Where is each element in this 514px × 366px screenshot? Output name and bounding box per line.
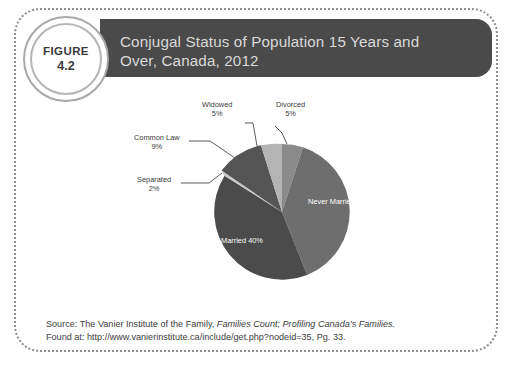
source-line-1-prefix: Source: The Vanier Institute of the Fami… (46, 319, 217, 329)
pie-label-married-pct: 40% (248, 236, 263, 245)
pie-label-widowed-name: Widowed (202, 100, 232, 109)
figure-number-badge: FIGURE 4.2 (23, 16, 109, 102)
figure-header-bar: Conjugal Status of Population 15 Years a… (100, 19, 492, 77)
leader-line-separated (181, 173, 222, 183)
pie-label-separated-pct: 2% (137, 184, 171, 193)
pie-label-divorced-pct: 5% (276, 109, 305, 118)
source-note: Source: The Vanier Institute of the Fami… (46, 318, 476, 345)
pie-label-divorced: Divorced 5% (276, 100, 305, 118)
leader-line-common-law (189, 141, 235, 158)
pie-label-common-law-pct: 9% (134, 142, 180, 151)
pie-label-widowed-pct: 5% (202, 109, 232, 118)
pie-label-married-name: Married (221, 236, 246, 245)
pie-label-widowed: Widowed 5% (202, 100, 232, 118)
pie-label-common-law-name: Common Law (134, 133, 180, 142)
pie-chart-svg (24, 86, 490, 308)
pie-label-never-married-name: Never Married (308, 197, 355, 206)
leader-line-divorced (275, 126, 287, 144)
pie-label-common-law: Common Law 9% (134, 133, 180, 151)
pie-chart: Divorced 5% Widowed 5% Common Law 9% Sep… (24, 86, 490, 308)
figure-number-badge-inner: FIGURE 4.2 (30, 23, 102, 95)
leader-line-widowed (245, 123, 257, 146)
source-line-1-title: Families Count; Profiling Canada’s Famil… (217, 319, 395, 329)
figure-title: Conjugal Status of Population 15 Years a… (120, 32, 419, 70)
figure-badge-number: 4.2 (57, 59, 74, 73)
pie-label-never-married-pct: 39% (357, 197, 372, 206)
source-line-2: Found at: http://www.vanierinstitute.ca/… (46, 331, 476, 344)
pie-label-divorced-name: Divorced (276, 100, 305, 109)
source-line-1: Source: The Vanier Institute of the Fami… (46, 318, 476, 331)
pie-label-separated-name: Separated (137, 175, 171, 184)
pie-label-separated: Separated 2% (137, 175, 171, 193)
pie-label-married: Married 40% (221, 236, 263, 246)
pie-label-never-married: Never Married 39% (308, 197, 372, 207)
figure-badge-label: FIGURE (43, 45, 89, 58)
